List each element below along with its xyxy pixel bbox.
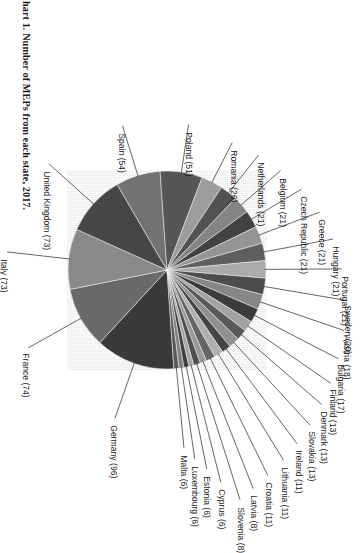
leader-line — [203, 361, 253, 488]
slice-label: Latvia (8) — [250, 496, 259, 532]
leader-line — [191, 365, 221, 482]
slice-label: Finland (13) — [329, 389, 338, 435]
slice-label: Czech Republic (21) — [300, 196, 309, 274]
slice-label: Netherlands (21) — [256, 162, 265, 226]
slice-label: Poland (51) — [185, 132, 194, 176]
slice-label: Germany (96) — [110, 425, 119, 478]
leader-line — [226, 348, 297, 443]
leader-line — [7, 252, 70, 259]
leader-line — [186, 366, 207, 469]
slice-label: Ireland (11) — [295, 450, 304, 493]
slice-label: Hungary (21) — [332, 246, 341, 296]
slice-label: Spain (54) — [117, 133, 126, 173]
leader-line — [115, 363, 135, 419]
leader-line — [259, 212, 320, 235]
leader-line — [28, 318, 81, 348]
slice-label: Slovenia (8) — [237, 507, 246, 553]
slice-label: Romania (26) — [229, 150, 238, 202]
leader-line — [254, 315, 338, 359]
leader-line — [260, 302, 344, 331]
leader-line — [248, 326, 331, 383]
leader-line — [49, 164, 94, 205]
leader-line — [233, 342, 310, 425]
slice-label: United Kingdom (73) — [42, 171, 51, 250]
slice-label: Malta (6) — [180, 455, 189, 489]
slice-label: Lithuania (11) — [281, 467, 290, 519]
slice-label: Greece (21) — [318, 219, 327, 265]
slice-label: Italy (73) — [0, 259, 8, 292]
slice-label: Estonia (6) — [203, 476, 212, 518]
slice-label: Belgium (21) — [279, 178, 288, 227]
slice-label: Cyprus (6) — [217, 489, 226, 529]
leader-line — [241, 334, 322, 404]
leader-line — [176, 368, 184, 449]
leader-line — [210, 358, 268, 476]
slice-label: Slovakia (13) — [308, 432, 317, 482]
slice-label: France (74) — [21, 354, 30, 398]
leader-line — [218, 354, 283, 461]
slice-label: Luxembourg (6) — [191, 466, 200, 527]
leader-line — [181, 367, 195, 459]
slice-label: Croatia (11) — [265, 483, 274, 528]
slice-label: Denmark (13) — [320, 411, 329, 464]
